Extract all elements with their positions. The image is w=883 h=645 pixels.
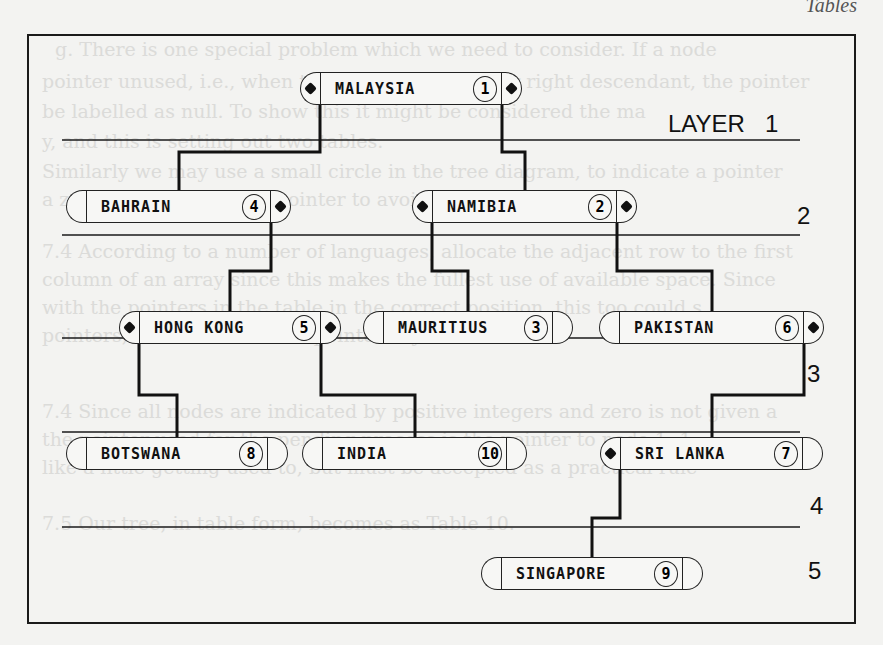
node-name: PAKISTAN [634,319,714,337]
tree-node-botswana: BOTSWANA8 [66,437,288,470]
node-body: INDIA10 [322,437,507,470]
tree-node-pakistan: PAKISTAN6 [599,311,824,344]
left-pointer-filled-icon [600,437,620,470]
node-name: SRI LANKA [635,445,725,463]
node-body: HONG KONG5 [139,311,321,344]
node-number-badge: 4 [242,194,266,220]
pointer-link [321,344,415,437]
node-name: BOTSWANA [101,445,181,463]
node-number-badge: 5 [292,315,316,341]
node-number-badge: 6 [775,315,799,341]
node-body: BOTSWANA8 [86,437,268,470]
pointer-dot-icon [620,200,633,213]
pointer-link [230,223,271,311]
tree-node-sri-lanka: SRI LANKA7 [600,437,823,470]
layer-label-1: LAYER 1 [668,110,778,138]
layer-label-4: 4 [810,492,823,520]
left-pointer-filled-icon [412,190,432,223]
right-pointer-null-icon [553,311,573,344]
pointer-dot-icon [416,200,429,213]
pointer-link [592,470,620,557]
node-number-badge: 3 [524,315,548,341]
node-number-badge: 10 [478,441,502,467]
node-name: HONG KONG [154,319,244,337]
node-body: PAKISTAN6 [619,311,804,344]
node-number-badge: 9 [654,561,678,587]
pointer-dot-icon [304,82,317,95]
left-pointer-null-icon [66,190,86,223]
pointer-dot-icon [604,447,617,460]
left-pointer-null-icon [66,437,86,470]
left-pointer-null-icon [363,311,383,344]
node-body: SINGAPORE9 [501,557,683,590]
node-body: SRI LANKA7 [620,437,803,470]
right-pointer-null-icon [683,557,703,590]
left-pointer-filled-icon [119,311,139,344]
node-number-badge: 2 [588,194,612,220]
right-pointer-filled-icon [271,190,291,223]
left-pointer-null-icon [302,437,322,470]
pointer-dot-icon [505,82,518,95]
pointer-link [712,344,804,437]
right-pointer-filled-icon [804,311,824,344]
node-body: BAHRAIN4 [86,190,271,223]
tree-node-hong-kong: HONG KONG5 [119,311,341,344]
node-number-badge: 7 [774,441,798,467]
pointer-link [617,223,712,311]
right-pointer-null-icon [268,437,288,470]
pointer-dot-icon [123,321,136,334]
pointer-dot-icon [807,321,820,334]
layer-label-5: 5 [808,557,821,585]
left-pointer-null-icon [481,557,501,590]
tree-node-namibia: NAMIBIA2 [412,190,637,223]
node-name: MAURITIUS [398,319,488,337]
tree-node-singapore: SINGAPORE9 [481,557,703,590]
node-name: NAMIBIA [447,198,517,216]
right-pointer-filled-icon [617,190,637,223]
node-body: MALAYSIA1 [320,72,502,105]
left-pointer-null-icon [599,311,619,344]
node-name: BAHRAIN [101,198,171,216]
pointer-link [502,105,525,190]
tree-node-malaysia: MALAYSIA1 [300,72,522,105]
layer-label-2: 2 [797,202,810,230]
tree-node-india: INDIA10 [302,437,527,470]
pointer-link [432,223,468,311]
layer-label-3: 3 [807,360,820,388]
right-pointer-filled-icon [502,72,522,105]
node-name: SINGAPORE [516,565,606,583]
node-name: INDIA [337,445,387,463]
right-pointer-null-icon [803,437,823,470]
pointer-link [139,344,177,437]
tree-node-bahrain: BAHRAIN4 [66,190,291,223]
pointer-link [179,105,320,190]
pointer-dot-icon [274,200,287,213]
right-pointer-null-icon [507,437,527,470]
node-body: MAURITIUS3 [383,311,553,344]
node-name: MALAYSIA [335,80,415,98]
node-body: NAMIBIA2 [432,190,617,223]
node-number-badge: 8 [239,441,263,467]
right-pointer-filled-icon [321,311,341,344]
pointer-dot-icon [324,321,337,334]
tree-node-mauritius: MAURITIUS3 [363,311,573,344]
left-pointer-filled-icon [300,72,320,105]
node-number-badge: 1 [473,76,497,102]
